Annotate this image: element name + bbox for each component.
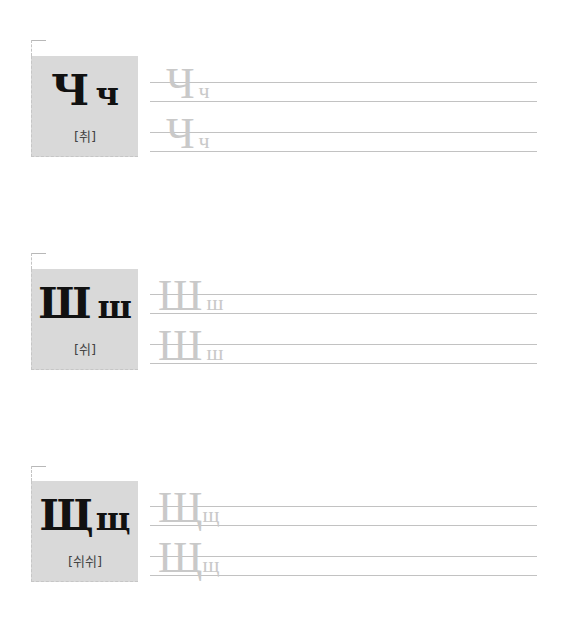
uppercase-letter: Щ (40, 491, 94, 540)
letter-pair: Шш (32, 281, 138, 330)
practice-row: Щщ (158, 488, 219, 528)
ghost-lowercase: ш (206, 340, 223, 365)
ghost-lowercase: ч (199, 128, 210, 153)
uppercase-letter: Ш (38, 279, 91, 328)
ghost-uppercase: Ч (166, 59, 195, 108)
letter-card: Щщ [쉬쉬] (31, 481, 138, 582)
ghost-uppercase: Щ (158, 483, 202, 532)
ghost-uppercase: Ш (158, 271, 202, 320)
lowercase-letter: ш (97, 288, 131, 326)
pronunciation: [취] (32, 126, 138, 145)
ghost-uppercase: Ш (158, 321, 202, 370)
ghost-lowercase: щ (202, 552, 219, 577)
letter-card: Шш [쉬] (31, 269, 138, 370)
practice-row: Щщ (158, 538, 219, 578)
corner-mark-dashed (31, 466, 32, 481)
practice-row: Шш (158, 326, 223, 366)
practice-row: Шш (158, 276, 223, 316)
practice-row: Чч (166, 64, 210, 104)
ghost-uppercase: Щ (158, 533, 202, 582)
ghost-lowercase: ч (199, 78, 210, 103)
ghost-lowercase: ш (206, 290, 223, 315)
lowercase-letter: ч (95, 75, 118, 113)
letter-pair: Чч (32, 68, 138, 117)
letter-pair: Щщ (32, 493, 138, 542)
uppercase-letter: Ч (51, 66, 89, 115)
pronunciation: [쉬] (32, 339, 138, 358)
letter-card: Чч [취] (31, 56, 138, 157)
lowercase-letter: щ (96, 500, 131, 538)
pronunciation: [쉬쉬] (32, 551, 138, 570)
corner-mark (31, 466, 46, 467)
corner-mark-dashed (31, 253, 32, 269)
ghost-lowercase: щ (202, 502, 219, 527)
corner-mark-dashed (31, 40, 32, 56)
practice-row: Чч (166, 114, 210, 154)
corner-mark (31, 40, 46, 41)
ghost-uppercase: Ч (166, 109, 195, 158)
corner-mark (31, 253, 46, 254)
